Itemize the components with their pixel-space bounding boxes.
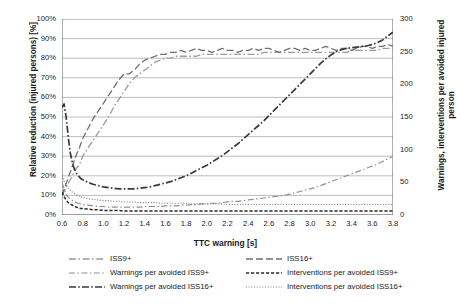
legend-item: ISS16+ <box>245 252 313 266</box>
y-right-tick-label: 250 <box>400 47 434 56</box>
y-left-tick-label: 70% <box>22 73 56 82</box>
y-left-tick-label: 80% <box>22 53 56 62</box>
legend-item-label: Interventions per avoided ISS16+ <box>287 282 403 292</box>
y-left-tick-label: 20% <box>22 171 56 180</box>
legend-line-sample <box>245 254 283 264</box>
y-left-tick-label: 100% <box>22 14 56 23</box>
legend-line-sample <box>245 282 283 292</box>
plot-svg <box>62 19 393 215</box>
legend-item-label: Warnings per avoided ISS16+ <box>110 282 214 292</box>
legend-item: ISS9+ <box>68 252 131 266</box>
y-left-tick-label: 10% <box>22 190 56 199</box>
chart-legend: ISS9+Warnings per avoided ISS9+Warnings … <box>0 252 451 300</box>
y-right-tick-label: 50 <box>400 177 434 186</box>
y-right-tick-label: 200 <box>400 79 434 88</box>
legend-line-sample <box>245 268 283 278</box>
legend-item-label: ISS16+ <box>287 254 313 264</box>
legend-line-sample <box>68 268 106 278</box>
y-right-tick-label: 300 <box>400 14 434 23</box>
y-axis-right-title: Warnings, interventions per avoided inju… <box>437 10 457 200</box>
y-right-tick-label: 100 <box>400 145 434 154</box>
x-tick-label: 3.8 <box>381 219 405 228</box>
y-left-tick-label: 60% <box>22 92 56 101</box>
legend-item: Warnings per avoided ISS16+ <box>68 280 214 294</box>
legend-item-label: Warnings per avoided ISS9+ <box>110 268 209 278</box>
y-left-tick-label: 30% <box>22 151 56 160</box>
legend-item: Interventions per avoided ISS9+ <box>245 266 398 280</box>
plot-area <box>62 19 393 215</box>
legend-item-label: ISS9+ <box>110 254 131 264</box>
y-right-tick-label: 0 <box>400 210 434 219</box>
legend-line-sample <box>68 254 106 264</box>
y-right-tick-label: 150 <box>400 112 434 121</box>
x-axis-title: TTC warning [s] <box>0 238 451 248</box>
legend-item-label: Interventions per avoided ISS9+ <box>287 268 398 278</box>
y-left-tick-label: 40% <box>22 132 56 141</box>
y-left-tick-label: 0% <box>22 210 56 219</box>
y-left-tick-label: 90% <box>22 34 56 43</box>
y-left-tick-label: 50% <box>22 112 56 121</box>
legend-item: Interventions per avoided ISS16+ <box>245 280 403 294</box>
legend-item: Warnings per avoided ISS9+ <box>68 266 209 280</box>
legend-line-sample <box>68 282 106 292</box>
